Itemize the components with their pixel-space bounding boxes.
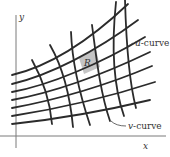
v-curve-line — [114, 2, 124, 116]
v-curve-suffix: -curve — [133, 121, 162, 131]
v-curve-line — [125, 0, 136, 108]
region-label: R — [83, 58, 91, 68]
u-curve-suffix: -curve — [141, 38, 170, 48]
curvilinear-grid-diagram: y x R u-curve v-curve — [0, 0, 170, 157]
v-curve-label: v-curve — [128, 121, 162, 131]
v-curve-line — [50, 45, 73, 127]
x-axis-label: x — [143, 141, 148, 151]
v-curve-leader-line — [111, 121, 126, 126]
u-curve-label: u-curve — [135, 38, 169, 48]
y-axis-label: y — [18, 12, 25, 22]
